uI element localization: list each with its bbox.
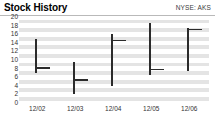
y-axis-tick-label: 16 bbox=[11, 31, 18, 38]
x-axis-tick-label: 12/05 bbox=[143, 105, 159, 113]
y-axis-labels: 20181614121086420 bbox=[0, 17, 19, 103]
y-axis-tick-label: 10 bbox=[11, 57, 18, 64]
y-axis-tick-label: 20 bbox=[11, 14, 18, 21]
price-bar-range bbox=[187, 28, 189, 71]
stock-history-chart: 20181614121086420 12/0212/0312/0412/0512… bbox=[0, 17, 215, 123]
ticker-symbol-label: NYSE: AKS bbox=[176, 4, 211, 12]
x-axis-labels: 12/0212/0312/0412/0512/06 bbox=[19, 105, 209, 119]
stock-history-widget: Stock History NYSE: AKS 2018161412108642… bbox=[0, 0, 215, 123]
plot-area bbox=[19, 17, 209, 103]
y-axis-tick-label: 4 bbox=[14, 83, 18, 90]
page-title: Stock History bbox=[4, 2, 67, 13]
x-axis-tick-label: 12/03 bbox=[67, 105, 83, 113]
y-axis-tick-label: 0 bbox=[14, 100, 18, 107]
y-axis-tick-label: 18 bbox=[11, 22, 18, 29]
widget-header: Stock History NYSE: AKS bbox=[0, 0, 215, 16]
x-axis-tick-label: 12/02 bbox=[29, 105, 45, 113]
price-bar bbox=[19, 17, 209, 103]
price-bar-close-tick bbox=[187, 29, 202, 31]
y-axis-tick-label: 2 bbox=[14, 91, 18, 98]
y-axis-tick-label: 12 bbox=[11, 48, 18, 55]
y-axis-tick-label: 8 bbox=[14, 65, 18, 72]
x-axis-tick-label: 12/04 bbox=[105, 105, 121, 113]
y-axis-tick-label: 14 bbox=[11, 40, 18, 47]
x-axis-tick-label: 12/06 bbox=[181, 105, 197, 113]
y-axis-tick-label: 6 bbox=[14, 74, 18, 81]
